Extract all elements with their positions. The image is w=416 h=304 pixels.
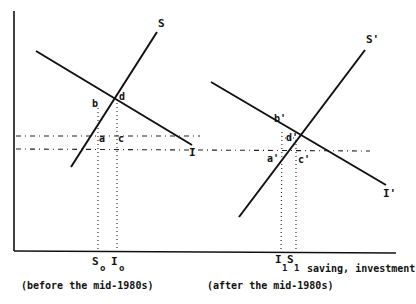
x-axis-label: saving, investment (307, 263, 415, 274)
point-c-prime: c' (298, 154, 310, 165)
label-S-prime: S' (366, 33, 379, 46)
label-S: S (158, 17, 165, 30)
point-c: c (118, 133, 124, 144)
point-a-prime: a' (267, 153, 279, 164)
saving-investment-diagram: S I b d a c S o I o (before the mid-1980… (0, 0, 416, 304)
right-panel-curves (211, 50, 386, 217)
vertical-reference-lines (98, 103, 296, 252)
saving-curve-S-prime (239, 50, 365, 217)
point-d-prime: d' (286, 132, 298, 143)
label-I0: I (111, 255, 118, 268)
label-S0: S (92, 255, 99, 268)
axes (14, 11, 396, 253)
x-axis (14, 251, 396, 253)
investment-curve-I-prime (211, 82, 386, 185)
label-I: I (189, 146, 196, 159)
label-S0-sub: o (100, 263, 105, 273)
label-S1: S (287, 253, 294, 266)
i1-drop-line (281, 132, 282, 252)
point-b: b (92, 98, 98, 109)
point-a: a (99, 133, 105, 144)
label-S1-sub: 1 (294, 263, 299, 273)
point-d: d (119, 91, 125, 102)
caption-before: (before the mid-1980s) (21, 280, 153, 291)
label-I1: I (275, 253, 282, 266)
saving-curve-S (71, 32, 157, 167)
label-I-prime: I' (383, 187, 396, 200)
investment-curve-I (36, 51, 192, 145)
left-panel-curves (36, 32, 192, 167)
caption-after: (after the mid-1980s) (207, 280, 333, 291)
point-b-prime: b' (274, 113, 286, 124)
label-I0-sub: o (119, 263, 124, 273)
